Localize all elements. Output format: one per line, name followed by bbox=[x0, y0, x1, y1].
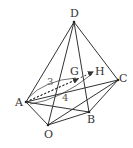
label-G: G bbox=[70, 65, 79, 78]
label-C: C bbox=[119, 72, 127, 85]
ratio-label-3: 3 bbox=[47, 76, 53, 87]
label-A: A bbox=[14, 96, 24, 109]
geometry-figure: D A O B C G H 3 4 bbox=[0, 0, 133, 148]
label-H: H bbox=[95, 65, 105, 78]
point-O bbox=[47, 124, 50, 127]
edge-OC bbox=[48, 80, 118, 125]
edge-DA bbox=[26, 22, 74, 102]
edge-OB bbox=[48, 112, 89, 125]
point-A bbox=[25, 101, 28, 104]
edge-AC bbox=[26, 80, 118, 102]
label-B: B bbox=[87, 113, 95, 126]
label-D: D bbox=[70, 7, 79, 20]
point-D bbox=[73, 21, 76, 24]
ratio-label-4: 4 bbox=[62, 92, 68, 103]
pyramid-diagram: D A O B C G H 3 4 bbox=[0, 0, 133, 148]
edge-AB bbox=[26, 102, 89, 112]
label-O: O bbox=[44, 128, 53, 141]
